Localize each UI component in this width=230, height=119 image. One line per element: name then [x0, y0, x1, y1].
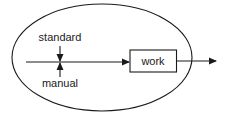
diagram-canvas: standard manual work [0, 0, 230, 119]
work-label: work [140, 55, 165, 67]
manual-label: manual [42, 77, 78, 89]
standard-label: standard [39, 31, 82, 43]
process-diagram: standard manual work [0, 0, 230, 119]
